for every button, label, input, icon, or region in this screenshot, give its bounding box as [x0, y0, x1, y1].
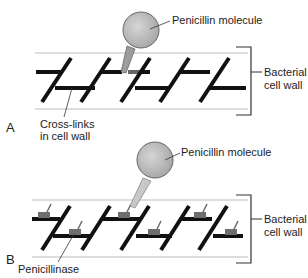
label-penicillin-molecule: Penicillin molecule	[172, 14, 263, 27]
molecule-stem	[130, 178, 151, 208]
label-bacterial: Bacterial	[264, 66, 307, 79]
peptidoglycan-strands	[36, 58, 246, 102]
label-penicillin-molecule: Penicillin molecule	[181, 146, 272, 159]
molecule-stem	[121, 46, 135, 73]
panel-letter-a: A	[6, 120, 15, 135]
wall-bracket	[236, 195, 251, 263]
penicillin-molecule-icon	[137, 142, 173, 178]
panel-b	[32, 142, 262, 263]
panel-a	[35, 12, 262, 117]
label-cell-wall: cell wall	[264, 226, 303, 239]
peptidoglycan-strands	[32, 206, 243, 250]
wall-bracket	[236, 47, 251, 115]
penicillin-molecule-icon	[123, 12, 159, 48]
label-cell-wall: cell wall	[264, 79, 303, 92]
label-penicillinase: Penicillinase	[18, 263, 79, 276]
panel-letter-b: B	[6, 252, 15, 267]
label-bacterial: Bacterial	[264, 213, 307, 226]
label-in-cell-wall: in cell wall	[40, 130, 90, 143]
